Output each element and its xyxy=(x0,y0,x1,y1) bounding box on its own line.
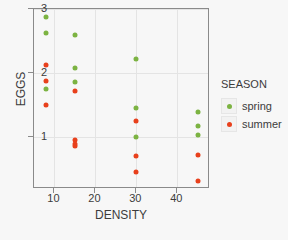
x-tick-label: 20 xyxy=(88,193,100,204)
data-point-spring xyxy=(72,66,77,71)
data-point-spring xyxy=(195,110,200,115)
x-tick-label: 30 xyxy=(129,193,141,204)
legend-label: spring xyxy=(242,100,272,112)
gridline-horizontal xyxy=(34,9,208,10)
data-point-summer xyxy=(134,154,139,159)
data-point-spring xyxy=(195,124,200,129)
legend-title: SEASON xyxy=(221,78,287,90)
data-point-spring xyxy=(44,87,49,92)
y-tick-label: 3 xyxy=(41,3,47,14)
scatter-plot-figure: 123 10203040 DENSITY EGGS SEASON springs… xyxy=(0,0,288,240)
y-tick-mark xyxy=(28,136,33,137)
data-point-spring xyxy=(134,56,139,61)
x-tick-mark xyxy=(135,188,136,193)
x-axis-label: DENSITY xyxy=(33,208,209,222)
y-tick-label: 1 xyxy=(41,131,47,142)
data-point-spring xyxy=(195,133,200,138)
data-point-summer xyxy=(44,79,49,84)
legend-item-summer[interactable]: summer xyxy=(221,115,287,133)
legend-key-icon xyxy=(221,116,237,132)
y-tick-mark xyxy=(28,8,33,9)
gridline-horizontal xyxy=(34,137,208,138)
data-point-summer xyxy=(72,144,77,149)
gridline-horizontal xyxy=(34,73,208,74)
data-point-spring xyxy=(44,31,49,36)
x-tick-mark xyxy=(53,188,54,193)
gridline-vertical xyxy=(177,9,178,187)
x-tick-label: 10 xyxy=(47,193,59,204)
gridline-vertical xyxy=(136,9,137,187)
data-point-spring xyxy=(134,134,139,139)
plot-area xyxy=(33,8,209,188)
x-tick-mark xyxy=(176,188,177,193)
gridline-vertical xyxy=(54,9,55,187)
data-point-spring xyxy=(72,33,77,38)
y-axis-label: EGGS xyxy=(14,29,28,149)
y-tick-mark xyxy=(28,72,33,73)
legend-item-spring[interactable]: spring xyxy=(221,97,287,115)
x-tick-mark xyxy=(94,188,95,193)
legend-swatch-summer xyxy=(227,122,232,127)
data-point-summer xyxy=(44,103,49,108)
data-point-summer xyxy=(134,118,139,123)
legend-swatch-spring xyxy=(227,104,232,109)
data-point-summer xyxy=(134,170,139,175)
legend-key-icon xyxy=(221,98,237,114)
legend-items: springsummer xyxy=(221,97,287,133)
gridline-vertical xyxy=(95,9,96,187)
data-point-summer xyxy=(195,179,200,184)
legend: SEASON springsummer xyxy=(221,78,287,133)
y-tick-label: 2 xyxy=(41,67,47,78)
legend-label: summer xyxy=(242,118,282,130)
data-point-spring xyxy=(44,15,49,20)
data-point-summer xyxy=(72,88,77,93)
data-point-spring xyxy=(72,79,77,84)
data-point-spring xyxy=(134,105,139,110)
data-point-summer xyxy=(195,153,200,158)
x-tick-label: 40 xyxy=(170,193,182,204)
